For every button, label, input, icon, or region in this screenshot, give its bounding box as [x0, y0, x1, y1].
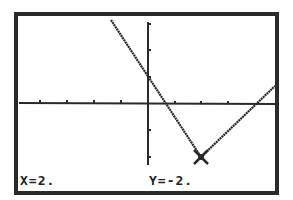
trace-cursor-icon [194, 150, 208, 164]
function-line-right [201, 86, 275, 157]
trace-y-value: Y=-2. [149, 173, 193, 188]
function-line-left [111, 20, 201, 157]
graph-canvas [0, 0, 293, 200]
trace-x-value: X=2. [20, 173, 55, 188]
